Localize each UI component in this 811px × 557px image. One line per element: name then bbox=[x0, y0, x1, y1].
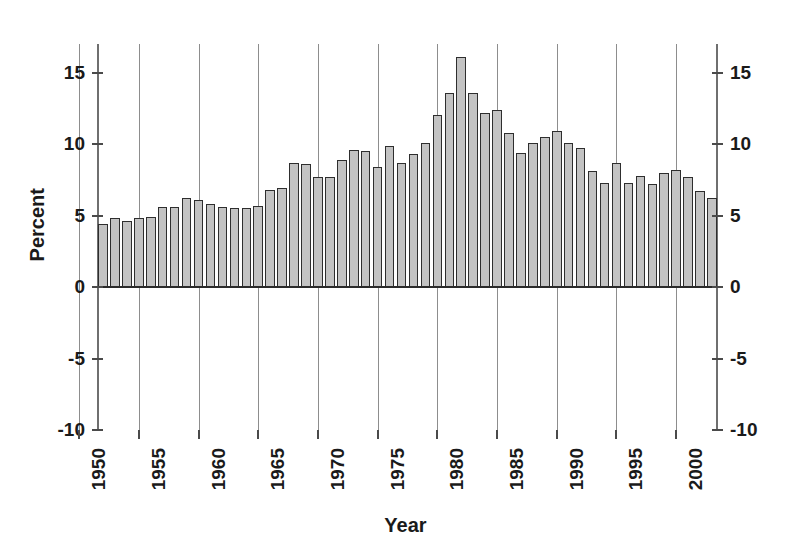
x-tick-1975 bbox=[377, 430, 379, 439]
bar-1973 bbox=[349, 150, 359, 287]
bar-1969 bbox=[301, 164, 311, 287]
y-tick-label-right-15: 15 bbox=[730, 63, 751, 82]
bar-1965 bbox=[253, 206, 263, 287]
x-tick-label-1965: 1965 bbox=[267, 448, 289, 490]
bar-1964 bbox=[242, 208, 252, 287]
bar-1981 bbox=[445, 93, 455, 287]
bar-1983 bbox=[468, 93, 478, 287]
y-tick-label-right-5: 5 bbox=[730, 206, 741, 225]
x-tick-label-1970: 1970 bbox=[327, 448, 349, 490]
y-tick-right--10 bbox=[712, 429, 723, 431]
x-tick-label-1960: 1960 bbox=[208, 448, 230, 490]
bar-1970 bbox=[313, 177, 323, 287]
y-tick-label-left--10: -10 bbox=[58, 420, 85, 439]
bar-1974 bbox=[361, 151, 371, 287]
x-tick-1960 bbox=[198, 430, 200, 439]
y-tick-right-10 bbox=[712, 143, 723, 145]
bar-1985 bbox=[492, 110, 502, 287]
x-tick-label-1990: 1990 bbox=[566, 448, 588, 490]
y-tick-label-left-15: 15 bbox=[64, 63, 85, 82]
bar-1982 bbox=[456, 57, 466, 287]
bar-1995 bbox=[612, 163, 622, 287]
x-tick-1950 bbox=[78, 430, 80, 439]
x-tick-1970 bbox=[317, 430, 319, 439]
bar-1996 bbox=[624, 183, 634, 287]
y-tick-left--5 bbox=[92, 358, 103, 360]
x-tick-1990 bbox=[556, 430, 558, 439]
bar-1971 bbox=[325, 177, 335, 287]
y-axis-title: Percent bbox=[26, 188, 49, 261]
plot-area: -10-10-5-5005510101515 19501955196019651… bbox=[97, 44, 718, 430]
y-tick-right-5 bbox=[712, 215, 723, 217]
bar-1988 bbox=[528, 143, 538, 287]
y-tick-label-right-0: 0 bbox=[730, 277, 741, 296]
bar-1977 bbox=[397, 163, 407, 287]
bar-1954 bbox=[122, 221, 132, 287]
x-tick-1995 bbox=[615, 430, 617, 439]
bar-1997 bbox=[636, 176, 646, 288]
bar-1987 bbox=[516, 153, 526, 287]
bar-1952 bbox=[98, 224, 108, 287]
y-tick-label-right-10: 10 bbox=[730, 134, 751, 153]
y-tick-label-left--5: -5 bbox=[68, 349, 85, 368]
y-tick-right-0 bbox=[712, 286, 723, 288]
x-tick-2000 bbox=[675, 430, 677, 439]
x-tick-1955 bbox=[138, 430, 140, 439]
bar-1958 bbox=[170, 207, 180, 287]
bar-1992 bbox=[576, 148, 586, 287]
bar-1984 bbox=[480, 113, 490, 287]
bar-1986 bbox=[504, 133, 514, 287]
x-tick-label-2000: 2000 bbox=[685, 448, 707, 490]
bar-1967 bbox=[277, 188, 287, 287]
x-tick-label-1980: 1980 bbox=[446, 448, 468, 490]
bar-1959 bbox=[182, 198, 192, 287]
bar-1998 bbox=[648, 184, 658, 287]
bar-2002 bbox=[695, 191, 705, 287]
y-tick-right-15 bbox=[712, 72, 723, 74]
bar-1963 bbox=[230, 208, 240, 287]
y-tick-label-left-10: 10 bbox=[64, 134, 85, 153]
bar-1975 bbox=[373, 167, 383, 287]
bar-1961 bbox=[206, 204, 216, 287]
y-tick-left--10 bbox=[92, 429, 103, 431]
bar-1957 bbox=[158, 207, 168, 287]
y-tick-left-15 bbox=[92, 72, 103, 74]
bar-1994 bbox=[600, 183, 610, 287]
x-axis-title: Year bbox=[0, 514, 811, 537]
bar-1990 bbox=[552, 131, 562, 287]
x-tick-1980 bbox=[436, 430, 438, 439]
zero-baseline bbox=[97, 286, 718, 288]
bar-1976 bbox=[385, 146, 395, 288]
x-tick-label-1975: 1975 bbox=[387, 448, 409, 490]
bar-1966 bbox=[265, 190, 275, 287]
gridline-1950 bbox=[79, 44, 80, 430]
bar-2003 bbox=[707, 198, 717, 287]
bar-1978 bbox=[409, 154, 419, 287]
bar-1955 bbox=[134, 218, 144, 287]
x-tick-label-1985: 1985 bbox=[506, 448, 528, 490]
bar-1956 bbox=[146, 217, 156, 287]
x-tick-1965 bbox=[257, 430, 259, 439]
y-tick-left-10 bbox=[92, 143, 103, 145]
bar-1979 bbox=[421, 143, 431, 287]
x-tick-label-1955: 1955 bbox=[148, 448, 170, 490]
bar-1962 bbox=[218, 207, 228, 287]
y-tick-label-right--10: -10 bbox=[730, 420, 757, 439]
y-tick-label-right--5: -5 bbox=[730, 349, 747, 368]
bar-1991 bbox=[564, 143, 574, 287]
bar-1980 bbox=[433, 115, 443, 287]
bar-1968 bbox=[289, 163, 299, 287]
bar-1960 bbox=[194, 200, 204, 287]
bar-1972 bbox=[337, 160, 347, 287]
y-tick-left-0 bbox=[92, 286, 103, 288]
bar-1989 bbox=[540, 137, 550, 287]
y-tick-label-left-0: 0 bbox=[74, 277, 85, 296]
y-tick-label-left-5: 5 bbox=[74, 206, 85, 225]
bar-1999 bbox=[659, 173, 669, 287]
bar-chart-figure: Percent -10-10-5-5005510101515 195019551… bbox=[0, 0, 811, 557]
x-tick-1985 bbox=[496, 430, 498, 439]
bar-2001 bbox=[683, 177, 693, 287]
x-tick-label-1950: 1950 bbox=[88, 448, 110, 490]
y-tick-right--5 bbox=[712, 358, 723, 360]
bar-1993 bbox=[588, 171, 598, 287]
